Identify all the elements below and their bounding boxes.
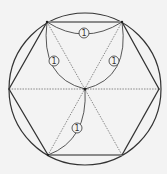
label-right: 1 xyxy=(109,56,119,66)
center-point xyxy=(83,87,86,90)
label-left: 1 xyxy=(49,56,59,66)
hexagon-diagram: 1 1 1 1 xyxy=(0,0,167,174)
label-bottom: 1 xyxy=(72,123,82,133)
label-top: 1 xyxy=(79,28,89,38)
vertex-top-right xyxy=(121,21,123,23)
hexagon-edge-upper-left xyxy=(9,22,47,89)
label-right-text: 1 xyxy=(111,57,116,66)
vertex-top-left xyxy=(46,21,48,23)
vertex-bottom-left xyxy=(47,154,49,156)
label-bottom-text: 1 xyxy=(74,124,79,133)
label-top-text: 1 xyxy=(81,29,86,38)
label-left-text: 1 xyxy=(51,57,56,66)
hexagon-edge-lower-left xyxy=(9,89,48,155)
